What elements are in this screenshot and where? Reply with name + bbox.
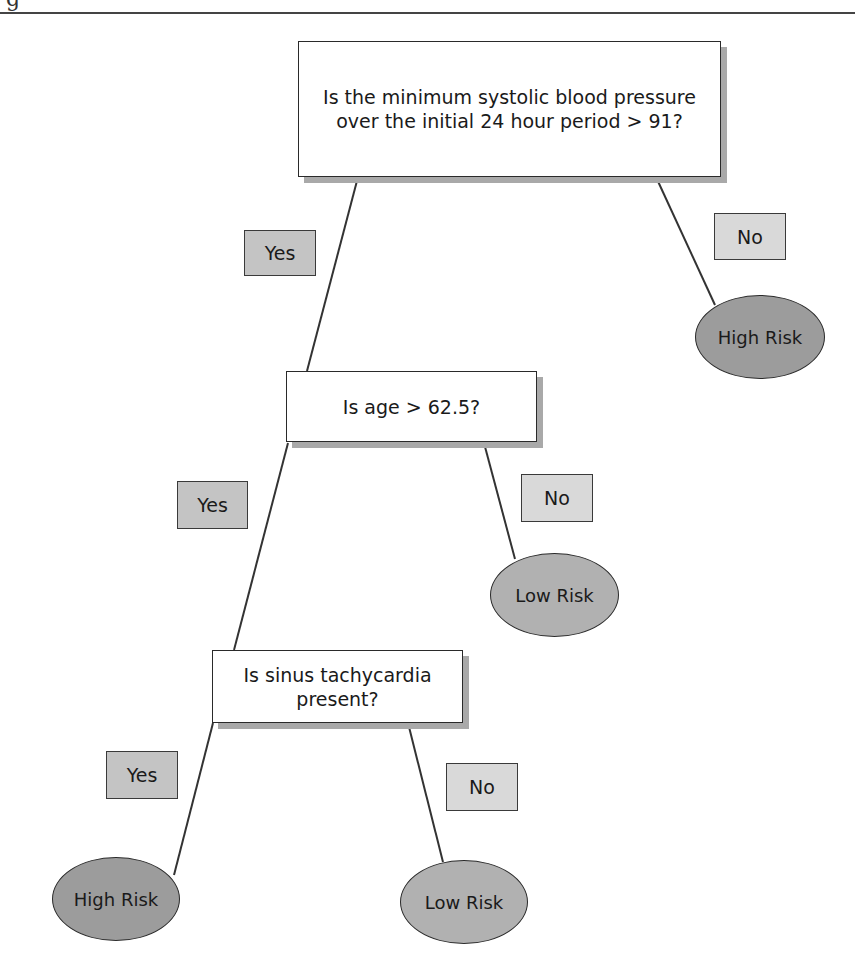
- yes-label-sinus: Yes: [106, 751, 178, 799]
- yes-text: Yes: [197, 494, 228, 516]
- yes-text: Yes: [127, 764, 158, 786]
- no-label-root: No: [714, 213, 786, 260]
- outcome-text: Low Risk: [425, 892, 503, 913]
- edge-node2-yes: [234, 443, 288, 650]
- outcome-text: High Risk: [718, 327, 802, 348]
- edge-node2-no: [484, 443, 515, 559]
- no-label-age: No: [521, 474, 593, 522]
- edge-node3-no: [408, 723, 443, 862]
- yes-label-age: Yes: [177, 481, 248, 529]
- question-box-age: Is age > 62.5?: [286, 371, 537, 442]
- no-text: No: [544, 487, 570, 509]
- question-text: Is sinus tachycardia present?: [223, 663, 452, 711]
- question-box-blood-pressure: Is the minimum systolic blood pressure o…: [298, 41, 721, 177]
- no-text: No: [469, 776, 495, 798]
- outcome-high-risk-root: High Risk: [695, 295, 825, 379]
- edge-root-no: [656, 177, 715, 305]
- yes-label-root: Yes: [244, 230, 316, 276]
- no-text: No: [737, 226, 763, 248]
- no-label-sinus: No: [446, 763, 518, 811]
- question-text: Is age > 62.5?: [343, 395, 480, 419]
- edge-node3-yes: [174, 723, 213, 875]
- yes-text: Yes: [265, 242, 296, 264]
- outcome-high-risk-sinus: High Risk: [52, 857, 180, 941]
- outcome-text: Low Risk: [515, 585, 593, 606]
- outcome-text: High Risk: [74, 889, 158, 910]
- outcome-low-risk-sinus: Low Risk: [400, 860, 528, 944]
- question-text: Is the minimum systolic blood pressure o…: [309, 85, 710, 133]
- question-box-sinus-tachycardia: Is sinus tachycardia present?: [212, 650, 463, 723]
- outcome-low-risk-age: Low Risk: [490, 553, 619, 637]
